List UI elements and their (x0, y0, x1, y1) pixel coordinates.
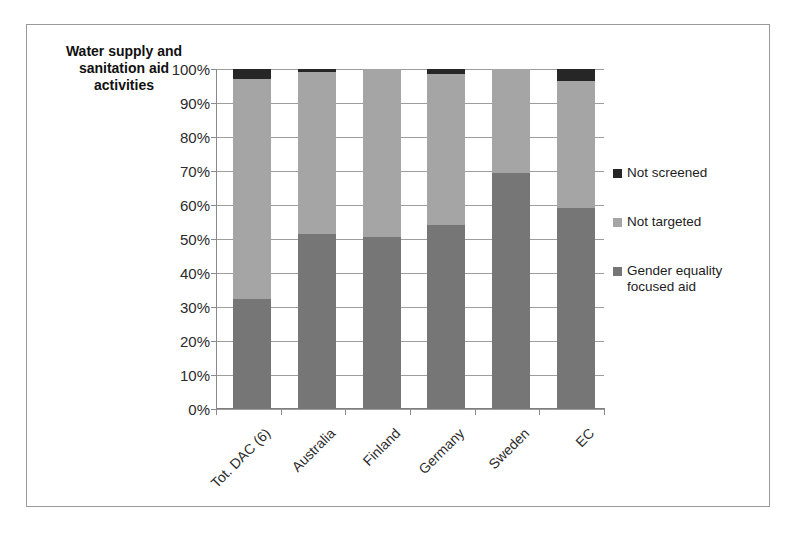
bar-segment[interactable] (363, 237, 401, 409)
bar-segment[interactable] (298, 234, 336, 409)
y-axis-tick-label: 10% (180, 367, 210, 384)
y-axis-tick (211, 69, 217, 70)
y-axis-tick (211, 273, 217, 274)
y-axis-tick (211, 171, 217, 172)
y-axis-tick (211, 341, 217, 342)
y-axis-tick (211, 307, 217, 308)
bar-segment[interactable] (557, 208, 595, 409)
legend-item[interactable]: Not screened (613, 165, 763, 181)
gridline (216, 273, 604, 274)
bar-segment[interactable] (363, 69, 401, 237)
y-axis-tick-label: 40% (180, 265, 210, 282)
legend-item[interactable]: Gender equality focused aid (613, 263, 763, 295)
gridline (216, 307, 604, 308)
legend-swatch-icon (613, 267, 622, 276)
x-axis-tick-label: Australia (288, 425, 338, 475)
y-axis-tick-label: 90% (180, 95, 210, 112)
legend-item[interactable]: Not targeted (613, 214, 763, 230)
x-axis-tick-label: EC (572, 425, 597, 450)
chart-figure-frame: Water supply and sanitation aid activiti… (26, 24, 770, 507)
gridline (216, 69, 604, 70)
y-axis-tick-label: 80% (180, 129, 210, 146)
bar-segment[interactable] (298, 69, 336, 72)
bar-segment[interactable] (233, 69, 271, 79)
gridline (216, 341, 604, 342)
bar-segment[interactable] (427, 225, 465, 409)
bar-segment[interactable] (492, 69, 530, 173)
bar-segment[interactable] (233, 299, 271, 410)
legend-swatch-icon (613, 218, 622, 227)
y-axis-tick-label: 50% (180, 231, 210, 248)
gridline (216, 375, 604, 376)
x-axis-tick-label: Sweden (485, 425, 532, 472)
bar-segment[interactable] (557, 81, 595, 209)
bar-segment[interactable] (427, 69, 465, 74)
y-axis-tick-label: 30% (180, 299, 210, 316)
y-axis-tick-label: 60% (180, 197, 210, 214)
y-axis-tick-label: 20% (180, 333, 210, 350)
bar-segment[interactable] (557, 69, 595, 81)
x-axis-tick-label: Finland (359, 425, 403, 469)
legend-label: Not screened (627, 165, 707, 181)
y-axis-tick (211, 205, 217, 206)
gridline (216, 239, 604, 240)
legend-swatch-icon (613, 169, 622, 178)
gridline (216, 171, 604, 172)
x-axis-tick-label: Tot. DAC (6) (208, 425, 274, 491)
y-axis-tick (211, 239, 217, 240)
x-axis-tick-label: Germany (416, 425, 468, 477)
gridline (216, 205, 604, 206)
y-axis-tick-labels: 100%90%80%70%60%50%40%30%20%10%0% (122, 69, 210, 409)
bar-segment[interactable] (233, 79, 271, 298)
gridline (216, 137, 604, 138)
bar-segment[interactable] (298, 72, 336, 234)
y-axis-tick (211, 103, 217, 104)
legend-label: Gender equality focused aid (627, 263, 722, 295)
gridline (216, 103, 604, 104)
chart-legend: Not screenedNot targetedGender equality … (613, 165, 763, 328)
x-axis-tick-labels: Tot. DAC (6)AustraliaFinlandGermanySwede… (216, 411, 636, 501)
legend-label: Not targeted (627, 214, 701, 230)
y-axis-tick (211, 375, 217, 376)
y-axis-tick (211, 137, 217, 138)
bar-segment[interactable] (492, 173, 530, 409)
y-axis-tick-label: 0% (188, 401, 210, 418)
y-axis-tick-label: 70% (180, 163, 210, 180)
plot-area (216, 69, 604, 409)
bar-segment[interactable] (427, 74, 465, 225)
y-axis-tick-label: 100% (172, 61, 210, 78)
